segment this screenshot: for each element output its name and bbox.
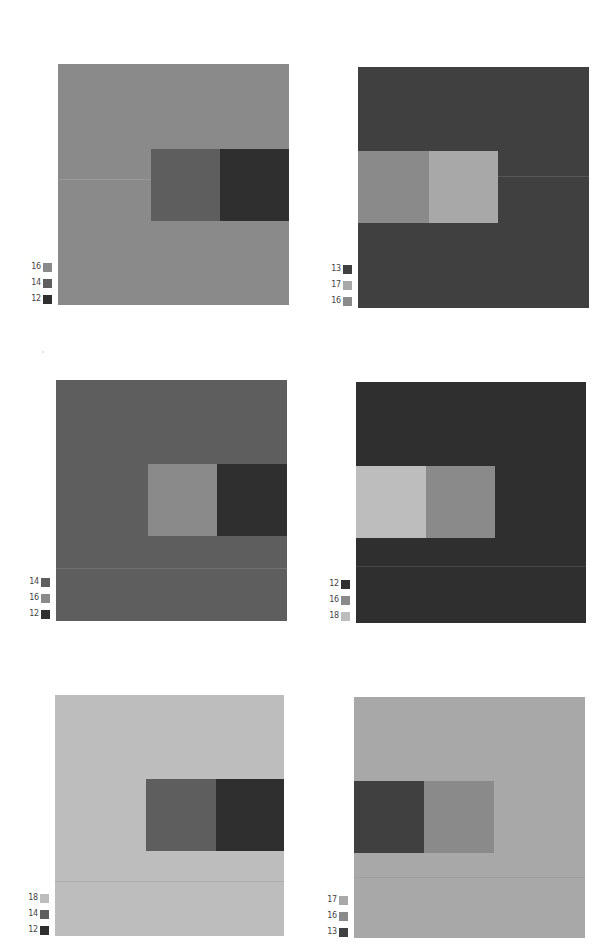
legend-swatch	[341, 580, 350, 589]
scan-seam	[356, 566, 586, 567]
panel-4-right-square	[426, 466, 495, 538]
panel-1-right-square	[220, 149, 289, 221]
legend-label: 14	[31, 278, 41, 288]
legend-item: 13	[327, 927, 348, 937]
panel-6-background	[354, 697, 585, 938]
panel-4-left-square	[356, 466, 426, 538]
panel-1-background	[58, 64, 289, 305]
legend-swatch	[41, 578, 50, 587]
legend-label: 14	[29, 577, 39, 587]
legend-item: 12	[29, 609, 50, 619]
legend-swatch	[43, 295, 52, 304]
legend-swatch	[343, 265, 352, 274]
legend-label: 16	[329, 595, 339, 605]
panel-5-right-square	[216, 779, 284, 851]
legend-item: 16	[31, 262, 52, 272]
scan-seam	[55, 881, 284, 882]
panel-2-background	[358, 67, 589, 308]
legend-item: 13	[331, 264, 352, 274]
legend-item: 17	[327, 895, 348, 905]
legend-swatch	[43, 263, 52, 272]
panel-2-left-square	[358, 151, 429, 223]
legend-swatch	[40, 894, 49, 903]
legend-label: 16	[29, 593, 39, 603]
legend-label: 12	[329, 579, 339, 589]
panel-3-background	[56, 380, 287, 621]
panel-6-right-square	[424, 781, 494, 853]
legend-swatch	[41, 610, 50, 619]
legend-swatch	[343, 281, 352, 290]
legend-item: 14	[28, 909, 49, 919]
legend-label: 16	[31, 262, 41, 272]
legend-label: 13	[327, 927, 337, 937]
legend-label: 12	[31, 294, 41, 304]
legend-swatch	[40, 910, 49, 919]
legend-item: 14	[31, 278, 52, 288]
legend-label: 13	[331, 264, 341, 274]
legend-swatch	[41, 594, 50, 603]
legend-swatch	[40, 926, 49, 935]
legend-swatch	[343, 297, 352, 306]
legend-swatch	[339, 896, 348, 905]
legend-label: 18	[28, 893, 38, 903]
legend-label: 18	[329, 611, 339, 621]
panel-4-background	[356, 382, 586, 623]
legend-item: 12	[28, 925, 49, 935]
legend-item: 16	[29, 593, 50, 603]
legend-label: 12	[28, 925, 38, 935]
legend-item: 18	[329, 611, 350, 621]
legend-label: 17	[327, 895, 337, 905]
legend-item: 17	[331, 280, 352, 290]
legend-item: 12	[329, 579, 350, 589]
panel-5-left-square	[146, 779, 216, 851]
scan-seam	[354, 877, 585, 878]
panel-3-right-square	[217, 464, 287, 536]
legend-item: 16	[329, 595, 350, 605]
legend-swatch	[339, 928, 348, 937]
legend-item: 12	[31, 294, 52, 304]
scan-speck	[42, 351, 44, 353]
panel-3-left-square	[148, 464, 217, 536]
panel-6-left-square	[354, 781, 424, 853]
panel-1-left-square	[151, 149, 220, 221]
legend-label: 16	[331, 296, 341, 306]
legend-swatch	[341, 596, 350, 605]
legend-swatch	[339, 912, 348, 921]
legend-swatch	[341, 612, 350, 621]
legend-swatch	[43, 279, 52, 288]
legend-label: 12	[29, 609, 39, 619]
panel-5-background	[55, 695, 284, 936]
legend-label: 17	[331, 280, 341, 290]
legend-item: 18	[28, 893, 49, 903]
scan-seam	[56, 568, 287, 569]
legend-label: 14	[28, 909, 38, 919]
legend-item: 16	[327, 911, 348, 921]
panel-2-right-square	[429, 151, 498, 223]
legend-label: 16	[327, 911, 337, 921]
legend-item: 16	[331, 296, 352, 306]
legend-item: 14	[29, 577, 50, 587]
